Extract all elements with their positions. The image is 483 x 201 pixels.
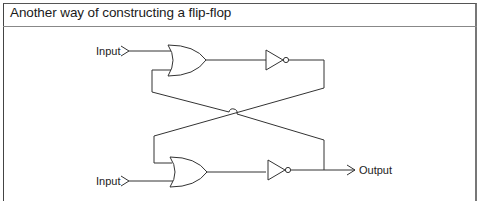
output-label: Output bbox=[359, 164, 392, 176]
input-top-label: Input bbox=[96, 45, 120, 57]
input-top-chevron-icon bbox=[121, 46, 129, 56]
not-gate-top-icon bbox=[266, 50, 283, 70]
not-gate-bottom-icon bbox=[268, 160, 285, 180]
input-bottom-chevron-icon bbox=[121, 176, 129, 186]
feedback-bottom-to-top-wire-a bbox=[152, 70, 229, 112]
feedback-bottom-to-top-wire-b bbox=[237, 114, 324, 170]
or-gate-top-icon bbox=[168, 45, 206, 76]
input-bottom-label: Input bbox=[96, 175, 120, 187]
not-top-bubble-icon bbox=[283, 57, 288, 62]
flip-flop-diagram: Input Input Output bbox=[0, 0, 483, 201]
or-gate-bottom-icon bbox=[170, 157, 207, 187]
not-bottom-bubble-icon bbox=[285, 167, 290, 172]
